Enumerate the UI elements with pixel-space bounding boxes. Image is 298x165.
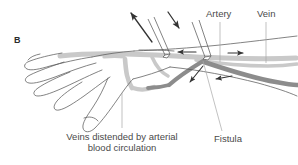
label-veins-caption: Veins distended by arterial blood circul… <box>60 131 184 153</box>
thumb-nail <box>84 117 98 121</box>
caption-line-1: Veins distended by arterial <box>60 131 184 142</box>
forearm-upper-edge <box>134 36 297 51</box>
label-vein: Vein <box>257 8 276 19</box>
finger-ring <box>34 70 102 96</box>
finger-little <box>54 77 110 110</box>
thumb <box>83 78 133 132</box>
arrow-up-left-icon <box>131 13 152 42</box>
arrow-left-icon-lower <box>216 76 232 79</box>
finger-index-nail <box>28 54 40 60</box>
arrow-down-right-icon <box>168 12 179 28</box>
caption-line-2: blood circulation <box>60 142 184 153</box>
finger-middle <box>25 62 96 83</box>
vein-hand-small <box>104 56 124 57</box>
panel-letter: B <box>14 35 21 45</box>
vein-branch-left <box>125 59 132 88</box>
av-fistula-diagram: B Artery Vein Fistula Veins distended by… <box>0 0 298 165</box>
hand-arm-outline <box>25 36 297 132</box>
leader-fistula <box>203 61 222 131</box>
artery-distal-branch <box>148 85 169 88</box>
label-artery: Artery <box>206 8 231 19</box>
label-fistula: Fistula <box>214 133 242 144</box>
